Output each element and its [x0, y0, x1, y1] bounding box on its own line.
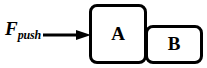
block-a-label: A: [111, 24, 125, 43]
force-label: Fpush: [5, 19, 41, 41]
block-b: B: [145, 25, 203, 64]
force-subscript: push: [18, 28, 41, 42]
block-b-label: B: [168, 34, 181, 53]
physics-diagram: Fpush A B: [0, 0, 207, 68]
force-symbol: F: [5, 18, 18, 39]
right-arrow-icon: [43, 30, 91, 40]
force-arrow: [43, 30, 91, 40]
block-a: A: [89, 4, 147, 64]
